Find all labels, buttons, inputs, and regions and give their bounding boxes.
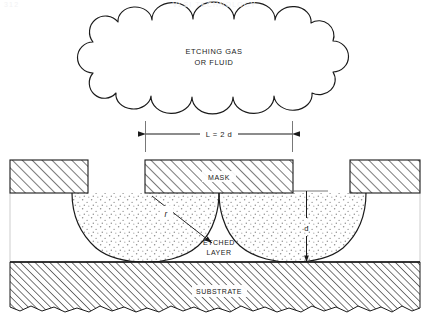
- mask-block-left: [10, 160, 88, 193]
- page-header: 312 VLSI TECHNOLOGY: [0, 0, 429, 12]
- cloud-label-line2: OR FLUID: [195, 58, 234, 67]
- running-title: VLSI TECHNOLOGY: [0, 1, 429, 8]
- mask-label: MASK: [208, 174, 230, 181]
- cloud-label-line1: ETCHING GAS: [186, 47, 243, 56]
- etched-layer: ETCHED LAYER: [10, 193, 420, 262]
- substrate: SUBSTRATE: [10, 262, 420, 312]
- mask-blocks: MASK: [10, 160, 420, 193]
- width-dimension-label: L = 2 d: [206, 130, 233, 139]
- depth-dimension-label: d: [304, 224, 309, 233]
- mask-block-right: [350, 160, 420, 193]
- etching-gas-cloud: ETCHING GAS OR FLUID: [78, 2, 349, 114]
- etching-cross-section-figure: 312 VLSI TECHNOLOGY: [0, 0, 429, 332]
- figure-canvas: ETCHING GAS OR FLUID L = 2 d: [0, 0, 429, 332]
- width-dimension: L = 2 d: [146, 121, 293, 152]
- substrate-label: SUBSTRATE: [196, 288, 242, 295]
- etched-layer-label-line2: LAYER: [207, 249, 232, 256]
- radius-label: r: [164, 210, 167, 219]
